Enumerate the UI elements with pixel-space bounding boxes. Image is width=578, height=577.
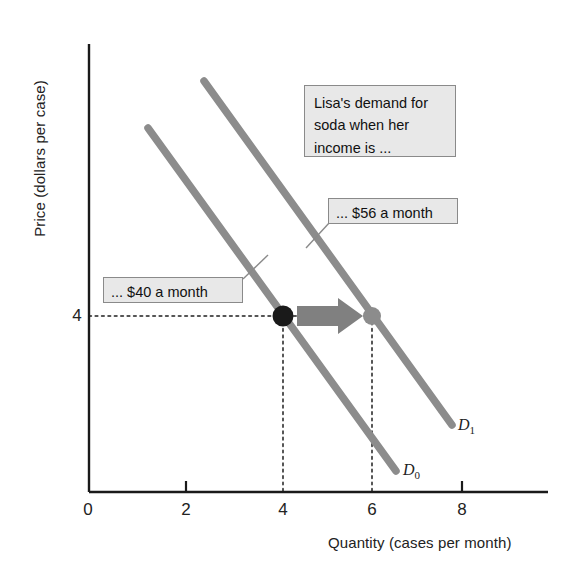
y-tick-label-4: 4 xyxy=(64,306,90,326)
callout-income-40: ... $40 a month xyxy=(103,277,243,303)
callout-leader-lines xyxy=(243,222,330,279)
x-tick-label-4: 4 xyxy=(270,500,296,520)
chart-canvas xyxy=(0,0,578,577)
curve-label-d1: D1 xyxy=(458,416,475,436)
guide-lines xyxy=(89,316,372,492)
marker-initial-point xyxy=(273,306,294,327)
marker-final-point xyxy=(363,307,381,325)
y-axis-title: Price (dollars per case) xyxy=(31,51,48,266)
x-axis-title: Quantity (cases per month) xyxy=(328,534,512,551)
curve-label-d0: D0 xyxy=(403,461,420,481)
callout-income-56: ... $56 a month xyxy=(328,198,458,224)
curve-label-d0-subscript: 0 xyxy=(415,469,421,481)
curve-label-d0-letter: D xyxy=(403,461,415,478)
x-tick-label-2: 2 xyxy=(173,500,199,520)
curve-label-d1-subscript: 1 xyxy=(470,424,476,436)
shift-arrow-icon xyxy=(297,298,363,334)
demand-shift-figure: Price (dollars per case) Quantity (cases… xyxy=(0,0,578,577)
x-tick-label-6: 6 xyxy=(359,500,385,520)
x-tick-label-0: 0 xyxy=(75,500,101,520)
curve-label-d1-letter: D xyxy=(458,416,470,433)
x-tick-label-8: 8 xyxy=(449,500,475,520)
callout-lisa-demand: Lisa's demand for soda when her income i… xyxy=(304,85,456,157)
